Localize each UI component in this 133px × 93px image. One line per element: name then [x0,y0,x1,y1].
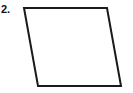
parallelogram-shape [24,8,121,86]
parallelogram-figure [0,0,133,93]
figure-container: 2. [0,0,133,93]
